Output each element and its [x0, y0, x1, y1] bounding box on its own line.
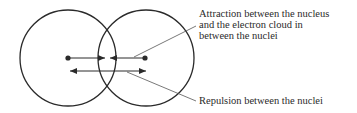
- repulsion-label: Repulsion between the nuclei: [199, 95, 323, 106]
- attraction-label-line-3: between the nuclei: [199, 30, 329, 41]
- attraction-label-line-2: and the electron cloud in: [199, 19, 329, 30]
- attraction-label: Attraction between the nucleus and the e…: [199, 8, 329, 41]
- repulsion-label-line-1: Repulsion between the nuclei: [199, 95, 323, 106]
- repulsion-leader-line: [127, 72, 196, 101]
- attraction-label-line-1: Attraction between the nucleus: [199, 8, 329, 19]
- attraction-leader-line: [134, 26, 196, 57]
